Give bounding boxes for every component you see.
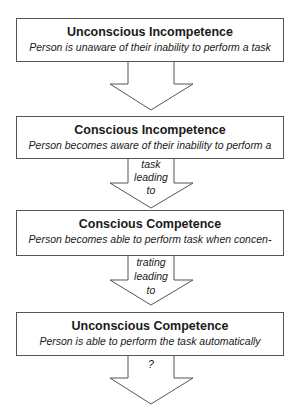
stage-box-conscious-competence: Conscious Competence Person becomes able… [16, 210, 284, 256]
stage-title: Unconscious Competence [17, 318, 283, 334]
arrow-text: ? [121, 358, 181, 371]
down-arrow-icon [110, 61, 193, 110]
stage-description: Person becomes aware of their inability … [17, 138, 283, 152]
stage-box-unconscious-competence: Unconscious Competence Person is able to… [16, 312, 284, 356]
arrow-text: task [121, 158, 181, 171]
stage-title: Conscious Competence [17, 216, 283, 232]
stage-title: Conscious Incompetence [17, 122, 283, 138]
arrow-text: leading [121, 171, 181, 184]
arrow-text: to [121, 283, 181, 297]
arrow-label: ? [121, 358, 181, 371]
stage-description: Person becomes able to perform task when… [17, 232, 283, 246]
stage-title: Unconscious Incompetence [17, 24, 283, 40]
arrow-text: trating [121, 255, 181, 269]
stage-description: Person is unaware of their inability to … [17, 40, 283, 54]
stage-box-conscious-incompetence: Conscious Incompetence Person becomes aw… [16, 116, 284, 159]
arrow-label: task leading to [121, 158, 181, 197]
stage-box-unconscious-incompetence: Unconscious Incompetence Person is unawa… [16, 18, 284, 62]
stage-description: Person is able to perform the task autom… [17, 334, 283, 348]
arrow-text: to [121, 184, 181, 197]
arrow-text: leading [121, 269, 181, 283]
arrow-label: trating leading to [121, 255, 181, 297]
